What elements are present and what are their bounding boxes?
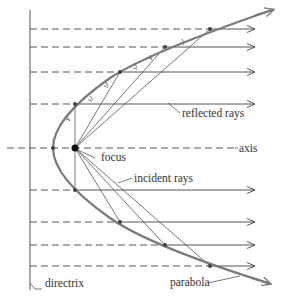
parabola-diagram: reflected rays axis focus incident rays … [0, 0, 289, 301]
incident-rays-label: incident rays [134, 172, 194, 185]
focus-point [72, 145, 79, 152]
leader-lines [30, 103, 240, 289]
directrix-label: directrix [45, 277, 84, 289]
angle-marks [66, 39, 184, 121]
axis-label: axis [239, 142, 258, 154]
reflected-rays-label: reflected rays [182, 107, 245, 120]
parabola-label: parabola [170, 276, 210, 289]
focus-label: focus [101, 151, 126, 163]
